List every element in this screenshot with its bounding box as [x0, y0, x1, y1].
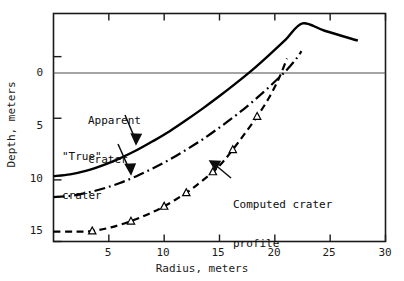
chart-canvas	[0, 0, 404, 281]
series-marker-2-6	[253, 112, 260, 119]
computed-crater-arrowhead	[210, 161, 220, 170]
annotation-true-crater-line2: crater	[62, 189, 102, 202]
y-tick-label-10: 10	[13, 172, 43, 185]
x-tick-label-15: 15	[203, 246, 233, 259]
annotation-computed-crater-profile: Computed crater profile	[233, 172, 332, 276]
x-tick-label-30: 30	[370, 246, 400, 259]
y-tick-label-15: 15	[13, 224, 43, 237]
x-tick-label-5: 5	[93, 246, 123, 259]
annotation-true-crater-line1: "True"	[62, 150, 102, 163]
annotation-computed-crater-profile-line2: profile	[233, 237, 332, 250]
y-tick-label-5: 5	[13, 119, 43, 132]
x-tick-label-10: 10	[148, 246, 178, 259]
y-axis-title: Depth, meters	[5, 75, 18, 175]
annotation-true-crater: "True" crater	[62, 124, 102, 228]
y-tick-label-0: 0	[13, 66, 43, 79]
annotation-computed-crater-profile-line1: Computed crater	[233, 198, 332, 211]
x-axis-title: Radius, meters	[0, 262, 404, 275]
crater-profile-figure: 0 5 10 15 5 10 15 20 25 30 Radius, meter…	[0, 0, 404, 281]
